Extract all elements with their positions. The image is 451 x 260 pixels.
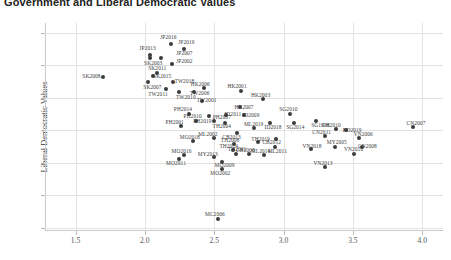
- page-title: Government and Liberal Democratic Values: [4, 0, 235, 8]
- x-tick-mark: [284, 231, 285, 235]
- gridline-vertical: [284, 23, 285, 231]
- y-tick-mark: [41, 163, 45, 164]
- plot-area: 3.002.802.602.402.202.001.80 1.52.02.53.…: [45, 23, 443, 231]
- point-label: JP2019: [178, 39, 194, 45]
- point-label: MY2005: [327, 139, 347, 145]
- gridline-horizontal: [45, 65, 443, 66]
- y-tick-mark: [41, 195, 45, 196]
- x-tick-label: 1.5: [71, 236, 80, 245]
- plot-frame: [45, 23, 443, 231]
- point-label: PH2010: [184, 113, 202, 119]
- y-tick-mark: [41, 130, 45, 131]
- point-label: CH2010: [322, 122, 341, 128]
- point-label: VN2018: [302, 143, 321, 149]
- point-label: TW2011: [148, 91, 168, 97]
- point-label: JP2002: [176, 58, 192, 64]
- scatter-point[interactable]: [261, 97, 265, 101]
- gridline-vertical: [422, 23, 423, 231]
- point-label: VN2010: [344, 146, 363, 152]
- point-label: TH2019: [251, 136, 270, 142]
- gridline-horizontal: [45, 195, 443, 196]
- scatter-point[interactable]: [169, 42, 173, 46]
- point-label: VN2006: [354, 131, 373, 137]
- x-tick-mark: [214, 231, 215, 235]
- point-label: MY2013: [198, 151, 218, 157]
- x-tick-mark: [76, 231, 77, 235]
- point-label: MO2016: [172, 148, 192, 154]
- gridline-horizontal: [45, 130, 443, 131]
- gridline-horizontal: [45, 33, 443, 34]
- point-label: TH2004: [213, 123, 232, 129]
- scatter-point[interactable]: [239, 89, 243, 93]
- point-label: TW2006: [190, 90, 210, 96]
- point-label: SK2015: [153, 73, 171, 79]
- scatter-point[interactable]: [194, 119, 198, 123]
- gridline-vertical: [145, 23, 146, 231]
- point-label: JP2007: [176, 50, 192, 56]
- scatter-point[interactable]: [101, 75, 105, 79]
- point-label: SK2007: [143, 84, 161, 90]
- scatter-point[interactable]: [352, 152, 356, 156]
- point-label: SK2011: [148, 65, 166, 71]
- point-label: MO2002: [210, 170, 230, 176]
- x-tick-mark: [145, 231, 146, 235]
- gridline-horizontal: [45, 98, 443, 99]
- y-tick-mark: [41, 98, 45, 99]
- point-label: TW2001: [197, 97, 217, 103]
- scatter-point[interactable]: [288, 112, 292, 116]
- x-tick-label: 3.5: [348, 236, 357, 245]
- point-label: MO2018: [180, 134, 200, 140]
- point-label: HK2003: [251, 92, 270, 98]
- point-label: ML2019: [244, 121, 263, 127]
- x-tick-label: 3.0: [279, 236, 288, 245]
- y-tick-mark: [41, 33, 45, 34]
- point-label: MO2009: [215, 162, 235, 168]
- point-label: PH2001: [166, 119, 184, 125]
- point-label: CN2011: [312, 129, 331, 135]
- x-tick-mark: [422, 231, 423, 235]
- y-tick-mark: [41, 228, 45, 229]
- chart-container: Government and Liberal Democratic Values…: [0, 0, 451, 260]
- x-tick-mark: [353, 231, 354, 235]
- y-axis-label-wrap: Liberal Democratic Values: [0, 23, 14, 231]
- gridline-vertical: [76, 23, 77, 231]
- point-label: ML2011: [268, 148, 287, 154]
- x-tick-label: 4.0: [418, 236, 427, 245]
- scatter-point[interactable]: [182, 153, 186, 157]
- x-tick-label: 2.5: [210, 236, 219, 245]
- point-label: SK2008: [82, 73, 100, 79]
- scatter-point[interactable]: [170, 62, 174, 66]
- gridline-horizontal: [45, 228, 443, 229]
- point-label: HK2006: [191, 81, 210, 87]
- point-label: CN2007: [407, 120, 426, 126]
- point-label: VN2013: [313, 160, 332, 166]
- point-label: MO2011: [166, 160, 186, 166]
- point-label: MC2006: [205, 211, 225, 217]
- point-label: JP2016: [160, 34, 176, 40]
- point-label: HK2007: [234, 104, 253, 110]
- point-label: ID2009: [242, 112, 259, 118]
- point-label: ML2002: [198, 131, 217, 137]
- point-label: TH2001: [228, 146, 247, 152]
- scatter-point[interactable]: [234, 152, 238, 156]
- point-label: JP2013: [139, 45, 155, 51]
- point-label: SG2014: [286, 124, 304, 130]
- point-label: ID2011: [224, 111, 241, 117]
- point-label: PH2014: [174, 106, 192, 112]
- point-label: ID2018: [265, 124, 282, 130]
- scatter-point[interactable]: [216, 217, 220, 221]
- y-tick-mark: [41, 65, 45, 66]
- point-label: SG2010: [279, 106, 297, 112]
- point-label: HK2001: [228, 83, 247, 89]
- x-tick-label: 2.0: [140, 236, 149, 245]
- gridline-horizontal: [45, 163, 443, 164]
